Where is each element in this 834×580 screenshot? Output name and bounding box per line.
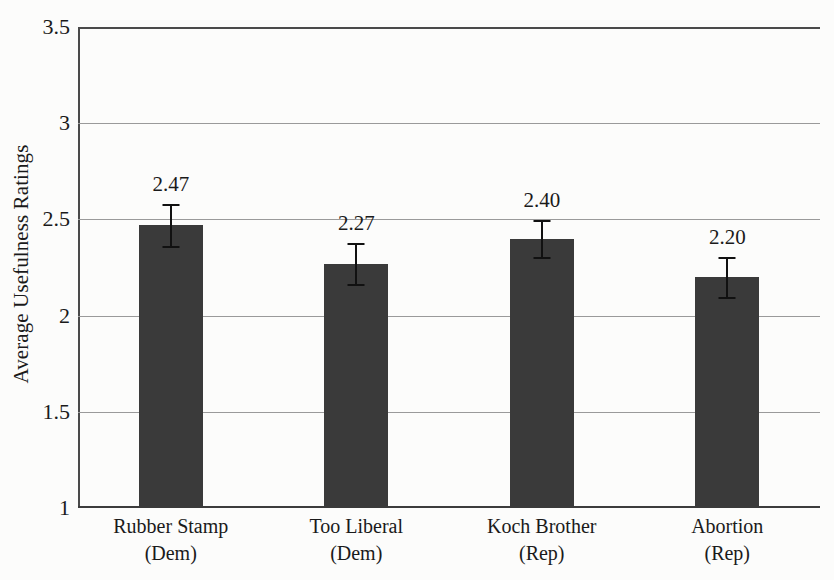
bar[interactable] [139, 225, 203, 508]
category-label-line2: (Dem) [78, 540, 264, 567]
y-tick-label-2.5: 2.5 [10, 208, 70, 230]
bar-value-label: 2.27 [338, 213, 375, 234]
bar[interactable] [510, 239, 574, 508]
bar-group[interactable]: 2.47 [139, 27, 203, 508]
error-bar-cap-lower [348, 284, 365, 286]
category-label: Abortion(Rep) [635, 513, 821, 567]
category-label-line2: (Rep) [635, 540, 821, 567]
category-label: Too Liberal(Dem) [264, 513, 450, 567]
error-bar-cap-upper [348, 243, 365, 245]
error-bar-cap-upper [533, 220, 550, 222]
error-bar-cap-upper [162, 204, 179, 206]
bar-value-label: 2.47 [152, 174, 189, 195]
y-tick-label-2: 2 [10, 305, 70, 327]
bars-layer: 2.472.272.402.20 [78, 27, 820, 508]
bar-group[interactable]: 2.40 [510, 27, 574, 508]
error-bar-stem [170, 204, 172, 246]
category-label-line1: Rubber Stamp [113, 515, 228, 537]
error-bar-cap-lower [719, 297, 736, 299]
category-label: Koch Brother(Rep) [449, 513, 635, 567]
bar-value-label: 2.40 [523, 190, 560, 211]
error-bar-cap-lower [533, 257, 550, 259]
bar-chart-figure: Average Usefulness Ratings 11.522.533.5 … [0, 0, 834, 580]
error-bar-stem [355, 243, 357, 283]
y-tick-label-3: 3 [10, 112, 70, 134]
y-tick-label-3.5: 3.5 [10, 16, 70, 38]
category-label-line1: Koch Brother [487, 515, 596, 537]
plot-area: 2.472.272.402.20 [78, 27, 820, 508]
category-label-line1: Too Liberal [309, 515, 403, 537]
bar-group[interactable]: 2.20 [695, 27, 759, 508]
y-tick-label-1.5: 1.5 [10, 401, 70, 423]
bar[interactable] [324, 264, 388, 508]
category-label-line2: (Rep) [449, 540, 635, 567]
category-label-line1: Abortion [691, 515, 763, 537]
category-label: Rubber Stamp(Dem) [78, 513, 264, 567]
bar-group[interactable]: 2.27 [324, 27, 388, 508]
bar[interactable] [695, 277, 759, 508]
error-bar-cap-upper [719, 257, 736, 259]
x-axis-category-labels: Rubber Stamp(Dem)Too Liberal(Dem)Koch Br… [78, 513, 820, 579]
category-label-line2: (Dem) [264, 540, 450, 567]
y-tick-label-1: 1 [10, 497, 70, 519]
error-bar-stem [541, 220, 543, 257]
y-axis-tick-labels: 11.522.533.5 [8, 0, 70, 580]
bar-value-label: 2.20 [709, 227, 746, 248]
error-bar-cap-lower [162, 246, 179, 248]
error-bar-stem [726, 257, 728, 297]
